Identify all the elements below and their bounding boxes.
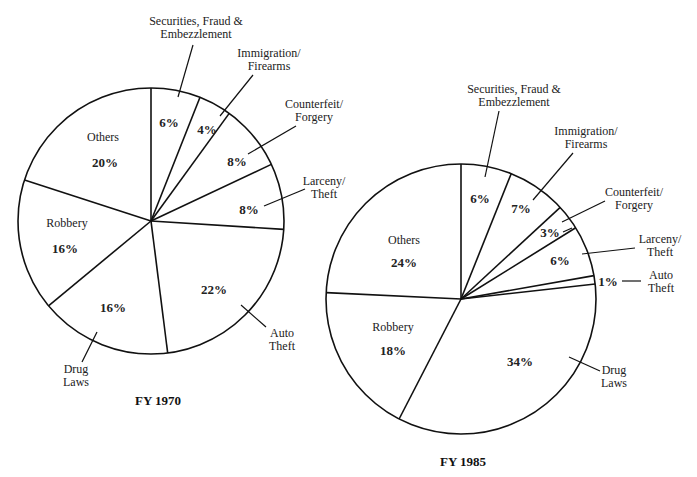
callout-immigration-line2: Firearms	[565, 137, 608, 151]
slice-label-autotheft-pct: 22%	[201, 282, 227, 297]
leader-line	[178, 45, 193, 97]
callout-autotheft-line1: Auto	[270, 326, 294, 340]
leader-line	[582, 248, 635, 254]
slice-label-others-pct: 24%	[391, 255, 417, 270]
pie-charts-figure: 6% 4% 8% 8% 22% 16% Robbery 16% Others 2…	[0, 0, 697, 477]
callout-larceny-line2: Theft	[311, 187, 338, 201]
callout-druglaws-line2: Laws	[63, 375, 89, 389]
chart-title-fy1985: FY 1985	[440, 454, 487, 469]
slice-label-robbery-pct: 16%	[52, 241, 78, 256]
callout-larceny-line2: Theft	[647, 245, 674, 259]
callout-immigration-line1: Immigration/	[554, 124, 618, 138]
callout-securities-line1: Securities, Fraud &	[149, 14, 243, 28]
slice-label-counterfeit-pct: 8%	[227, 154, 247, 169]
leader-line	[220, 75, 253, 116]
slice-label-others: Others	[87, 130, 119, 144]
callout-druglaws-line1: Drug	[64, 362, 89, 376]
callout-larceny-line1: Larceny/	[303, 174, 346, 188]
callout-securities-line2: Embezzlement	[478, 95, 550, 109]
callout-securities-line2: Embezzlement	[160, 27, 232, 41]
pie-chart-fy1985: 6% 7% 3% 6% 1% 34% Robbery 18% Others 24…	[326, 82, 682, 469]
slice-label-autotheft-pct: 1%	[598, 274, 618, 289]
callout-druglaws-line1: Drug	[602, 363, 627, 377]
slice-label-securities-pct: 6%	[159, 115, 179, 130]
callout-counterfeit-line1: Counterfeit/	[605, 185, 664, 199]
slice-label-immigration-pct: 7%	[511, 201, 531, 216]
slice-label-larceny-pct: 6%	[550, 253, 570, 268]
slice-label-counterfeit-pct: 3%	[540, 225, 560, 240]
callout-autotheft-line2: Theft	[648, 281, 675, 295]
slice-label-druglaws-pct: 34%	[507, 354, 533, 369]
callout-larceny-line1: Larceny/	[639, 232, 682, 246]
slice-label-others-pct: 20%	[92, 155, 118, 170]
leader-line	[562, 201, 605, 222]
slice-label-robbery-pct: 18%	[380, 343, 406, 358]
chart-title-fy1970: FY 1970	[135, 393, 181, 408]
callout-druglaws-line2: Laws	[601, 376, 627, 390]
slice-label-druglaws-pct: 16%	[100, 300, 126, 315]
callout-immigration-line2: Firearms	[248, 59, 291, 73]
slice-label-others: Others	[388, 233, 420, 247]
slice-label-securities-pct: 6%	[470, 191, 490, 206]
pie-chart-fy1970: 6% 4% 8% 8% 22% 16% Robbery 16% Others 2…	[18, 14, 346, 408]
callout-counterfeit-line2: Forgery	[295, 110, 333, 124]
callout-counterfeit-line1: Counterfeit/	[285, 97, 344, 111]
callout-autotheft-line1: Auto	[649, 268, 673, 282]
callout-immigration-line1: Immigration/	[237, 46, 301, 60]
callout-counterfeit-line2: Forgery	[615, 198, 653, 212]
callout-securities-line1: Securities, Fraud &	[467, 82, 561, 96]
slice-label-robbery: Robbery	[46, 216, 87, 230]
slice-label-larceny-pct: 8%	[239, 202, 259, 217]
slice-label-robbery: Robbery	[372, 320, 413, 334]
slice-label-immigration-pct: 4%	[197, 122, 217, 137]
leader-line	[533, 153, 573, 200]
callout-autotheft-line2: Theft	[269, 339, 296, 353]
